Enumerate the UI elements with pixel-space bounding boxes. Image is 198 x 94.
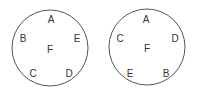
left-label-a: A bbox=[48, 14, 55, 25]
right-label-c: C bbox=[116, 33, 123, 44]
left-label-f: F bbox=[47, 44, 53, 55]
right-label-b: B bbox=[163, 68, 170, 79]
circle-diagram: A B E F C D A C D F E B bbox=[0, 0, 198, 94]
left-label-b: B bbox=[20, 33, 27, 44]
left-label-d: D bbox=[65, 68, 72, 79]
left-label-c: C bbox=[29, 68, 36, 79]
right-label-d: D bbox=[171, 33, 178, 44]
right-circle-group: A C D F E B bbox=[109, 9, 185, 85]
left-label-e: E bbox=[74, 33, 81, 44]
right-label-f: F bbox=[144, 43, 150, 54]
right-label-a: A bbox=[143, 14, 150, 25]
right-label-e: E bbox=[127, 68, 134, 79]
left-circle-group: A B E F C D bbox=[12, 10, 88, 86]
